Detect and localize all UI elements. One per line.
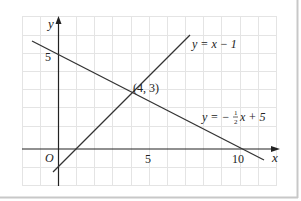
x-axis-label: x xyxy=(271,150,278,165)
origin-label: O xyxy=(45,151,54,165)
coordinate-graph: y x O 5 5 10 (4, 3) y = x − 1 y = − 1 2 … xyxy=(0,0,301,201)
y-axis-label: y xyxy=(46,16,54,31)
graph-panel: y x O 5 5 10 (4, 3) y = x − 1 y = − 1 2 … xyxy=(0,0,301,201)
line-label-y-equals-x-minus-1: y = x − 1 xyxy=(191,37,237,51)
intersection-label: (4, 3) xyxy=(133,81,159,95)
line-y-equals-minus-half-x-plus-5 xyxy=(32,41,264,160)
y-tick-label-5: 5 xyxy=(45,50,51,64)
svg-text:2: 2 xyxy=(234,118,238,126)
line-y-equals-x-minus-1 xyxy=(53,35,190,172)
svg-text:1: 1 xyxy=(234,109,238,117)
x-tick-label-5: 5 xyxy=(145,152,151,166)
svg-text:y = −: y = − xyxy=(201,110,230,124)
line-label-y-equals-minus-half-x-plus-5: y = − 1 2 x + 5 xyxy=(201,109,265,126)
x-tick-label-10: 10 xyxy=(232,152,244,166)
y-axis-arrow-icon xyxy=(56,16,62,24)
svg-text:x + 5: x + 5 xyxy=(239,110,265,124)
